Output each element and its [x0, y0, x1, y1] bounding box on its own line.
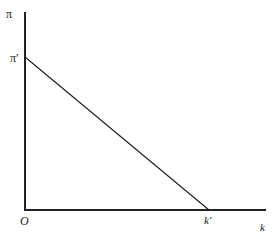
profit-line	[25, 57, 209, 210]
y-intercept-label: π′	[10, 51, 19, 65]
y-axis-label: π	[6, 7, 12, 21]
origin-label: O	[20, 214, 29, 228]
x-axis-label: k	[260, 221, 266, 233]
x-intercept-label: k′	[204, 214, 212, 226]
diagram: π π′ O k′ k	[0, 0, 278, 239]
